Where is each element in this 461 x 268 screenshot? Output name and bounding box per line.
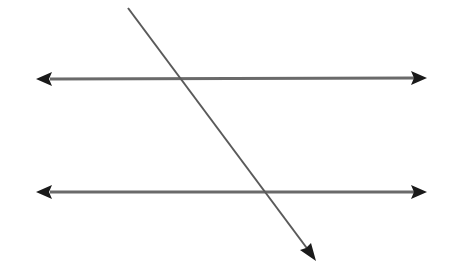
transversal [128,8,316,261]
parallel-line-top [36,71,427,86]
parallel-lines-diagram: Two parallel lines cut by a transversal [0,0,461,268]
arrowhead-left-icon [36,185,52,199]
arrowhead-left-icon [36,72,52,86]
arrowhead-down-right-icon [300,243,316,261]
transversal-shaft [128,8,309,251]
parallel-line-bottom [36,185,427,199]
parallel-line-top-shaft [50,78,414,79]
